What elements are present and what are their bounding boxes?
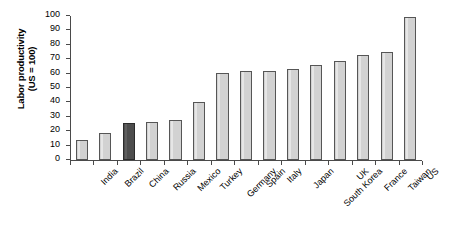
bar-taiwan <box>381 52 393 160</box>
y-tick-label: 90 <box>40 23 60 34</box>
bar-highlight-sheen <box>336 62 338 159</box>
y-tick: 20 <box>66 130 70 131</box>
bar-russia <box>146 122 158 160</box>
x-label-india: India <box>98 166 119 187</box>
bar-highlight-sheen <box>171 121 173 159</box>
y-tick: 90 <box>66 29 70 30</box>
bar-highlight-sheen <box>242 72 244 159</box>
bar-turkey <box>193 102 205 160</box>
plot-area: 0102030405060708090100 IndiaBrazilChinaR… <box>70 16 422 160</box>
x-label-italy: Italy <box>285 166 304 185</box>
y-tick-label: 70 <box>40 52 60 63</box>
y-tick-label: 0 <box>40 153 60 164</box>
y-tick-label: 20 <box>40 124 60 135</box>
x-label-mexico: Mexico <box>195 166 222 193</box>
bar-japan <box>287 69 299 160</box>
bar-highlight-sheen <box>265 72 267 159</box>
x-tick <box>234 161 235 165</box>
bar-italy <box>263 71 275 160</box>
x-label-france: France <box>383 166 410 193</box>
y-axis-line <box>70 16 71 160</box>
x-tick <box>93 161 94 165</box>
bar-brazil <box>99 133 111 160</box>
bar-south-korea <box>310 65 322 160</box>
y-tick-label: 60 <box>40 67 60 78</box>
bar-highlight-sheen <box>312 66 314 159</box>
y-axis-title-line-1: Labor productivity <box>15 29 27 110</box>
y-tick-label: 30 <box>40 110 60 121</box>
bar-highlight-sheen <box>406 18 408 159</box>
bar-india <box>76 140 88 160</box>
y-tick-label: 10 <box>40 139 60 150</box>
x-label-turkey: Turkey <box>218 166 244 192</box>
x-tick <box>375 161 376 165</box>
bar-highlight-sheen <box>289 70 291 159</box>
bar-spain <box>240 71 252 160</box>
x-tick <box>281 161 282 165</box>
y-tick-label: 100 <box>40 9 60 20</box>
y-tick: 50 <box>66 87 70 88</box>
x-tick <box>187 161 188 165</box>
y-tick-label: 80 <box>40 38 60 49</box>
bar-us <box>404 17 416 160</box>
y-tick-label: 50 <box>40 81 60 92</box>
x-tick <box>422 161 423 165</box>
x-tick <box>305 161 306 165</box>
x-tick <box>258 161 259 165</box>
x-tick <box>352 161 353 165</box>
x-label-china: China <box>147 166 171 190</box>
bar-highlight-sheen <box>359 56 361 159</box>
y-tick: 70 <box>66 58 70 59</box>
bar-highlight-sheen <box>78 141 80 159</box>
y-tick: 60 <box>66 73 70 74</box>
y-tick: 100 <box>66 15 70 16</box>
x-tick <box>164 161 165 165</box>
bar-highlight-sheen <box>218 74 220 159</box>
bar-germany <box>216 73 228 160</box>
bar-highlight-sheen <box>195 103 197 159</box>
x-tick <box>117 161 118 165</box>
y-tick-label: 40 <box>40 95 60 106</box>
y-axis-title-line-2: (US = 100) <box>26 47 38 92</box>
x-tick <box>211 161 212 165</box>
x-tick <box>328 161 329 165</box>
x-label-japan: Japan <box>311 166 335 190</box>
y-axis-title: Labor productivity (US = 100) <box>9 0 43 139</box>
bar-highlight-sheen <box>125 124 127 159</box>
y-tick: 80 <box>66 44 70 45</box>
bar-uk <box>334 61 346 160</box>
y-tick: 0 <box>66 159 70 160</box>
bar-highlight-sheen <box>383 53 385 159</box>
bar-highlight-sheen <box>148 123 150 159</box>
x-label-brazil: Brazil <box>123 166 146 189</box>
x-tick <box>399 161 400 165</box>
bar-mexico <box>169 120 181 160</box>
bar-france <box>357 55 369 160</box>
y-tick: 10 <box>66 145 70 146</box>
chart-figure: Labor productivity (US = 100) 0102030405… <box>0 0 451 225</box>
x-label-russia: Russia <box>171 166 198 193</box>
bar-highlight-sheen <box>101 134 103 159</box>
x-axis-line <box>70 160 422 161</box>
y-tick: 30 <box>66 116 70 117</box>
x-tick <box>70 161 71 165</box>
bar-china <box>123 123 135 160</box>
x-tick <box>140 161 141 165</box>
y-tick: 40 <box>66 101 70 102</box>
